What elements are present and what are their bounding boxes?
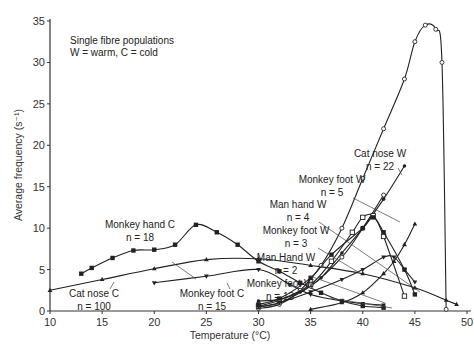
leader-line <box>353 198 400 222</box>
triangle-marker <box>412 221 417 225</box>
open-circle-marker <box>382 193 386 197</box>
square-marker <box>110 256 114 260</box>
leader-line <box>172 262 196 279</box>
leader-line <box>310 276 385 303</box>
open-circle-marker <box>340 255 344 259</box>
x-tick-label: 15 <box>96 316 108 328</box>
open-square-marker <box>402 294 406 298</box>
y-tick-label: 10 <box>33 222 45 234</box>
open-circle-marker <box>434 27 438 31</box>
open-circle-marker <box>444 307 448 311</box>
x-tick-label: 50 <box>461 316 473 328</box>
series-label: Monkey foot W <box>263 225 330 236</box>
annotation-line-1: Single fibre populations <box>70 35 174 46</box>
square-marker <box>152 247 156 251</box>
x-axis-label: Temperature (°C) <box>190 329 271 341</box>
series-label: Cat nose W <box>354 148 407 159</box>
square-marker <box>131 248 135 252</box>
x-tick-label: 45 <box>409 316 421 328</box>
series-label: Cat nose C <box>69 288 119 299</box>
series-group <box>48 23 459 311</box>
y-tick-label: 15 <box>33 181 45 193</box>
circle-marker <box>340 251 344 255</box>
square-marker <box>215 230 219 234</box>
series-label: Man Hand W <box>257 252 316 263</box>
annotation-line-2: W = warm, C = cold <box>70 47 158 58</box>
square-marker <box>173 243 177 247</box>
x-tick-label: 40 <box>357 316 369 328</box>
line-chart: 10152025303540455005101520253035 Monkey … <box>0 0 474 349</box>
y-tick-label: 5 <box>39 264 45 276</box>
series-label: Monkey foot C <box>180 288 244 299</box>
open-circle-marker <box>382 127 386 131</box>
series-line <box>311 224 415 309</box>
series-n-label: n = 15 <box>198 301 227 312</box>
y-tick-label: 20 <box>33 139 45 151</box>
triangle-marker <box>360 290 365 294</box>
open-circle-marker <box>440 60 444 64</box>
series-label: Man hand W <box>270 199 327 210</box>
open-square-marker <box>350 230 354 234</box>
square-marker <box>79 272 83 276</box>
x-tick-label: 10 <box>44 316 56 328</box>
square-marker <box>319 291 323 295</box>
square-marker <box>361 226 365 230</box>
y-axis-label: Average frequency (s⁻¹) <box>12 109 24 221</box>
open-circle-marker <box>413 40 417 44</box>
series-labels: Monkey hand Cn = 18Cat nose Cn = 100Monk… <box>69 148 407 312</box>
series-label: Monkey foot W <box>247 278 314 289</box>
series-n-label: n = 5 <box>321 187 344 198</box>
down-triangle-marker <box>152 281 157 285</box>
series-n-label: n = 100 <box>77 301 111 312</box>
open-circle-marker <box>423 23 427 27</box>
series-n-label: n = 18 <box>126 232 155 243</box>
square-marker <box>381 230 385 234</box>
y-tick-label: 25 <box>33 98 45 110</box>
series-label: Monkey foot W <box>299 174 366 185</box>
open-square-marker <box>329 259 333 263</box>
square-marker <box>90 266 94 270</box>
open-square-marker <box>361 215 365 219</box>
series-label: Monkey hand C <box>105 219 175 230</box>
x-tick-label: 20 <box>148 316 160 328</box>
square-marker <box>235 243 239 247</box>
series-n-label: n = 22 <box>366 161 395 172</box>
x-tick-label: 35 <box>305 316 317 328</box>
series-n-label: n = 13 <box>266 291 295 302</box>
circle-marker <box>403 164 407 168</box>
series-n-label: n = 4 <box>287 212 310 223</box>
y-tick-label: 0 <box>39 305 45 317</box>
x-tick-label: 30 <box>252 316 264 328</box>
x-tick-label: 25 <box>200 316 212 328</box>
down-triangle-marker <box>412 280 417 284</box>
series-n-label: n = 2 <box>275 265 298 276</box>
open-circle-marker <box>402 77 406 81</box>
square-marker <box>413 292 417 296</box>
y-tick-label: 35 <box>33 15 45 27</box>
square-marker <box>371 215 375 219</box>
series-n-label: n = 3 <box>285 238 308 249</box>
open-circle-marker <box>340 226 344 230</box>
y-tick-label: 30 <box>33 56 45 68</box>
square-marker <box>194 223 198 227</box>
